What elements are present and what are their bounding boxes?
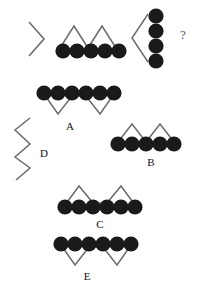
option-c-shape — [57, 181, 143, 217]
five-dots-with-zigzag-above[interactable] — [55, 17, 127, 61]
puzzle-canvas: ? A D B — [0, 0, 206, 293]
dots-zigzag-above-shape — [55, 17, 127, 61]
chevron-right-icon — [26, 20, 48, 58]
option-a-shape — [36, 84, 122, 118]
option-e[interactable] — [53, 235, 139, 269]
answer-placeholder[interactable]: ? — [180, 28, 186, 41]
chevron-right-glyph[interactable] — [26, 20, 48, 58]
option-d-label: D — [36, 148, 52, 159]
option-a[interactable] — [36, 84, 122, 118]
option-d[interactable] — [10, 116, 36, 182]
option-c[interactable] — [57, 181, 143, 217]
option-c-label: C — [92, 219, 108, 230]
option-b[interactable] — [110, 118, 186, 154]
option-d-shape — [10, 116, 36, 182]
vertical-dots-chevron-shape — [129, 8, 171, 70]
four-dots-vertical-with-chevron[interactable] — [129, 8, 171, 70]
option-a-label: A — [62, 121, 78, 132]
option-b-label: B — [143, 157, 159, 168]
option-b-shape — [110, 118, 186, 154]
option-e-label: E — [79, 271, 95, 282]
option-e-shape — [53, 235, 139, 269]
